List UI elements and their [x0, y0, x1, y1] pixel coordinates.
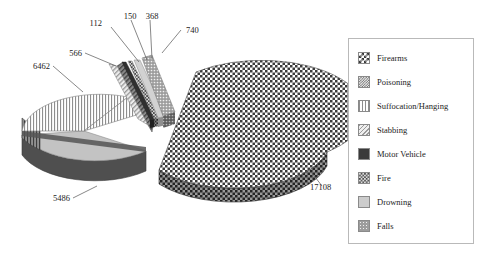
solid-dark-swatch-icon: [358, 148, 370, 160]
light-gray-swatch-icon: [358, 196, 370, 208]
leader-5486: [73, 186, 97, 198]
legend-item-fire[interactable]: Fire: [358, 166, 473, 190]
legend-label-falls: Falls: [377, 222, 394, 231]
legend-item-drowning[interactable]: Drowning: [358, 190, 473, 214]
label-368: 368: [146, 11, 159, 21]
checkerboard-fine-swatch-icon: [358, 76, 370, 88]
leader-112: [111, 27, 139, 62]
slice-top-firearms: [159, 60, 365, 188]
legend-item-poisoning[interactable]: Poisoning: [358, 70, 473, 94]
legend-label-stabbing: Stabbing: [377, 126, 407, 135]
leader-6462: [53, 66, 83, 92]
legend-item-motor-vehicle[interactable]: Motor Vehicle: [358, 142, 473, 166]
checkerboard-mid-swatch-icon: [358, 172, 370, 184]
legend-label-suffocation-hanging: Suffocation/Hanging: [377, 102, 448, 111]
label-112: 112: [90, 18, 102, 28]
legend-item-stabbing[interactable]: Stabbing: [358, 118, 473, 142]
label-5486: 5486: [53, 193, 70, 203]
legend-label-motor-vehicle: Motor Vehicle: [377, 150, 426, 159]
leader-566: [85, 53, 116, 66]
legend-label-firearms: Firearms: [377, 54, 407, 63]
leader-368: [150, 20, 152, 59]
chart-legend: Firearms Poisoning Suffocation/Hanging S…: [348, 38, 474, 244]
pie-group-firearms: [159, 60, 365, 202]
legend-item-suffocation-hanging[interactable]: Suffocation/Hanging: [358, 94, 473, 118]
leader-150: [131, 20, 147, 60]
legend-item-firearms[interactable]: Firearms: [358, 46, 473, 70]
dotted-swatch-icon: [358, 220, 370, 232]
label-150: 150: [124, 11, 137, 21]
legend-label-drowning: Drowning: [377, 198, 411, 207]
label-6462: 6462: [33, 61, 50, 71]
checkerboard-large-swatch-icon: [358, 52, 370, 64]
vertical-stripes-swatch-icon: [358, 100, 370, 112]
diagonal-hatch-swatch-icon: [358, 124, 370, 136]
leader-740: [162, 30, 181, 53]
label-566: 566: [69, 48, 82, 58]
label-740: 740: [186, 25, 199, 35]
label-17108: 17108: [310, 182, 331, 192]
legend-label-fire: Fire: [377, 174, 391, 183]
pie-chart-figure: 112 150 368 740 566 6462 5486 17108 Fire…: [0, 0, 481, 253]
legend-label-poisoning: Poisoning: [377, 78, 411, 87]
legend-item-falls[interactable]: Falls: [358, 214, 473, 238]
pie-group-left: [22, 94, 146, 180]
